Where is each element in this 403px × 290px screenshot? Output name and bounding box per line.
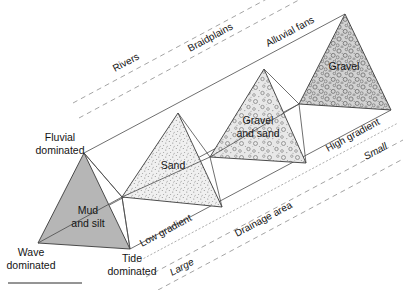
label-large: Large: [168, 256, 196, 278]
label-wave-dominated-line1: Wave: [18, 246, 45, 258]
label-gravel: Gravel: [329, 60, 360, 72]
label-tide-dominated-line2: dominated: [107, 265, 156, 277]
label-mud-and-silt-line2: and silt: [71, 217, 104, 229]
label-tide-dominated-line1: Tide: [122, 252, 142, 264]
label-mud-and-silt-line1: Mud: [78, 204, 99, 216]
top-axis-dash-upper: [73, 0, 345, 103]
label-wave-dominated-line2: dominated: [6, 259, 55, 271]
label-low-gradient: Low gradient: [138, 212, 194, 249]
label-sand: Sand: [161, 159, 186, 171]
label-small: Small: [362, 140, 390, 162]
label-gravel-and-sand-line1: Gravel: [243, 114, 274, 126]
label-fluvial-dominated-line2: dominated: [35, 144, 84, 156]
label-rivers: Rivers: [111, 51, 141, 74]
label-fluvial-dominated-line1: Fluvial: [45, 131, 75, 143]
depositional-systems-diagram: Mud and silt Sand Gravel and sand Gravel…: [0, 0, 403, 290]
label-braidplains: Braidplains: [186, 21, 235, 54]
label-gravel-and-sand-line2: and sand: [236, 127, 279, 139]
label-drainage-area: Drainage area: [233, 199, 294, 239]
